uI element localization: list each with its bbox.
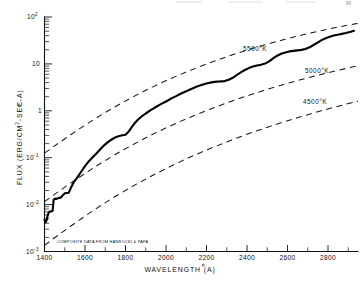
curve-label-4500K: 4500°K — [303, 98, 327, 105]
axis-frame — [45, 17, 359, 252]
scan-artifact-top — [176, 1, 351, 5]
curve-label-5500K: 5500°K — [243, 45, 267, 52]
composite-solar-flux-path — [45, 31, 355, 223]
data-source-annotation: COMPOSITE DATA FROM HANROCKI & PAPA — [57, 239, 149, 244]
x-axis-tick-labels: 1400 1600 1800 2000 2200 2400 2600 2800 — [36, 254, 336, 261]
series-blackbody-5500K — [45, 23, 359, 153]
chart-figure: 102 10 1 10-1 10-2 10-3 FLUX (ERG/CM2-SE… — [0, 0, 363, 285]
x-axis-ticks — [45, 245, 349, 252]
flux-vs-wavelength-plot: 102 10 1 10-1 10-2 10-3 FLUX (ERG/CM2-SE… — [0, 0, 363, 285]
y-tick-label-1e2: 102 — [27, 12, 38, 20]
y-tick-label-1e-2: 10-2 — [26, 200, 39, 208]
x-tick-label-1600: 1600 — [77, 254, 93, 261]
blackbody-5500K-path — [45, 23, 359, 153]
x-tick-label-1800: 1800 — [117, 254, 133, 261]
y-tick-label-1e0: 1 — [38, 107, 42, 114]
x-tick-label-2600: 2600 — [279, 254, 295, 261]
x-axis-title: WAVELENGTH (A) — [144, 266, 215, 274]
y-tick-label-1e1: 10 — [32, 60, 40, 67]
x-tick-label-2800: 2800 — [320, 254, 336, 261]
x-tick-label-2200: 2200 — [198, 254, 214, 261]
x-tick-label-1400: 1400 — [36, 254, 52, 261]
curve-label-5000K: 5000°K — [305, 67, 329, 74]
y-tick-label-1e-1: 10-1 — [26, 153, 39, 161]
x-tick-label-2400: 2400 — [239, 254, 255, 261]
y-axis-tick-labels: 102 10 1 10-1 10-2 10-3 — [26, 12, 42, 255]
x-tick-label-2000: 2000 — [158, 254, 174, 261]
blackbody-4500K-path — [45, 101, 359, 245]
series-blackbody-4500K — [45, 101, 359, 245]
y-axis-title: FLUX (ERG/CM2-SEC-A) — [15, 89, 24, 185]
series-composite-solar-flux — [45, 31, 355, 223]
